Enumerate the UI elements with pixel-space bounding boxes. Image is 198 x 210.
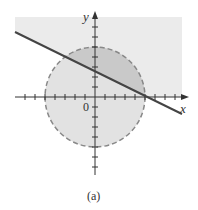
x-axis-label: x (179, 101, 186, 116)
origin-label: 0 (83, 100, 89, 114)
y-axis-label: y (81, 9, 89, 24)
x-axis-arrow-icon (181, 94, 189, 100)
figure-canvas: y x 0 (a) (0, 0, 198, 210)
y-axis-arrow-icon (92, 11, 98, 19)
figure-caption: (a) (87, 189, 100, 203)
